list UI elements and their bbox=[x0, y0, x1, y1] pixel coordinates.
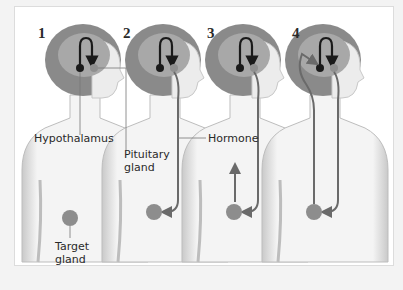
panel-number-2: 2 bbox=[123, 25, 131, 42]
hypothalamus-label: Hypothalamus bbox=[34, 132, 114, 145]
panel-number-1: 1 bbox=[38, 25, 46, 42]
target-gland-label-line2: gland bbox=[55, 253, 86, 266]
panel-number-4: 4 bbox=[292, 25, 300, 42]
pituitary-label-line2: gland bbox=[124, 161, 155, 174]
hormone-label: Hormone bbox=[208, 132, 259, 145]
pituitary-label-line1: Pituitary bbox=[124, 148, 170, 161]
target-gland-label-line1: Target bbox=[55, 240, 89, 253]
panel-number-3: 3 bbox=[207, 25, 215, 42]
